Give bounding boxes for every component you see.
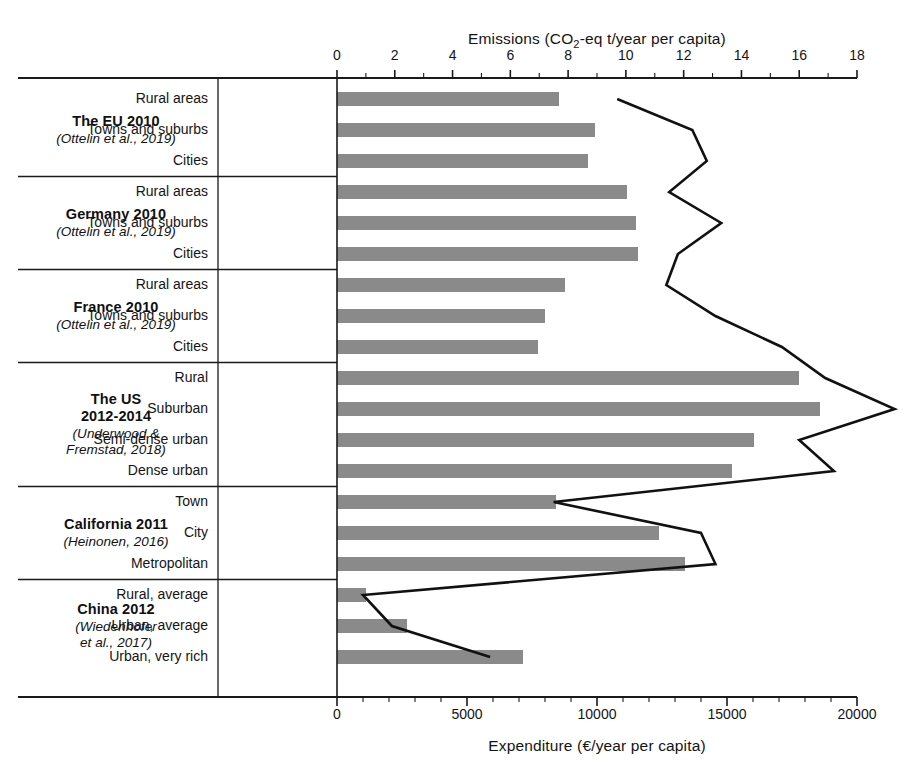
axes-and-line-svg <box>0 0 906 770</box>
emissions-line <box>363 99 895 657</box>
emissions-expenditure-chart: Emissions (CO2-eq t/year per capita) Exp… <box>0 0 906 770</box>
